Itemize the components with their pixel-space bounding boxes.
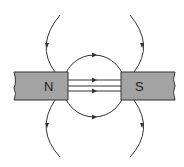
south-label: S (135, 79, 144, 94)
arrow-icon (45, 123, 49, 128)
arrow-icon (92, 53, 97, 58)
magnetic-field-diagram: N S (0, 0, 184, 167)
north-label: N (44, 79, 53, 94)
south-magnet (121, 72, 175, 100)
north-magnet (14, 72, 68, 100)
arrow-icon (92, 115, 97, 120)
arrow-icon (92, 78, 97, 83)
arrow-icon (92, 89, 97, 94)
field-line-right-bottom (130, 100, 144, 157)
field-line-left-bottom (46, 100, 60, 157)
